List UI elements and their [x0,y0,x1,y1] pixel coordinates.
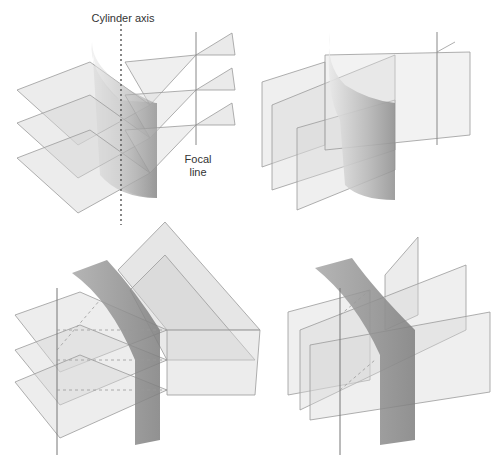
figure-canvas: Cylinder axis Focal line [0,0,501,465]
panel-bottom-right [288,237,490,445]
focal-line-label: Focal line [178,153,218,179]
focal-line-label-2: line [178,166,218,179]
diagram-svg [0,0,501,465]
focal-line-label-1: Focal [178,153,218,166]
panel-bottom-left [15,222,260,445]
panel-top-left [17,33,235,213]
panel-top-right [262,32,470,210]
cylinder-axis-label: Cylinder axis [88,12,158,25]
